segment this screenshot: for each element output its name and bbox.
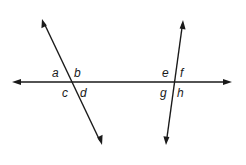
left-intersection-labels: a b c d — [52, 66, 87, 100]
horizontal-line-left-arrow-icon — [12, 79, 21, 85]
angle-label-g: g — [160, 86, 167, 100]
right-transversal-bottom-arrow-icon — [163, 136, 169, 145]
angle-diagram: a b c d e f g h — [0, 0, 246, 165]
angle-label-c: c — [62, 86, 68, 100]
angle-label-e: e — [162, 66, 169, 80]
horizontal-line-right-arrow-icon — [223, 79, 232, 85]
right-transversal-top-arrow-icon — [180, 20, 186, 29]
horizontal-line — [12, 79, 232, 85]
angle-label-a: a — [52, 66, 59, 80]
angle-label-b: b — [74, 66, 81, 80]
angle-label-f: f — [180, 66, 185, 80]
angle-label-d: d — [80, 86, 87, 100]
angle-label-h: h — [177, 86, 184, 100]
